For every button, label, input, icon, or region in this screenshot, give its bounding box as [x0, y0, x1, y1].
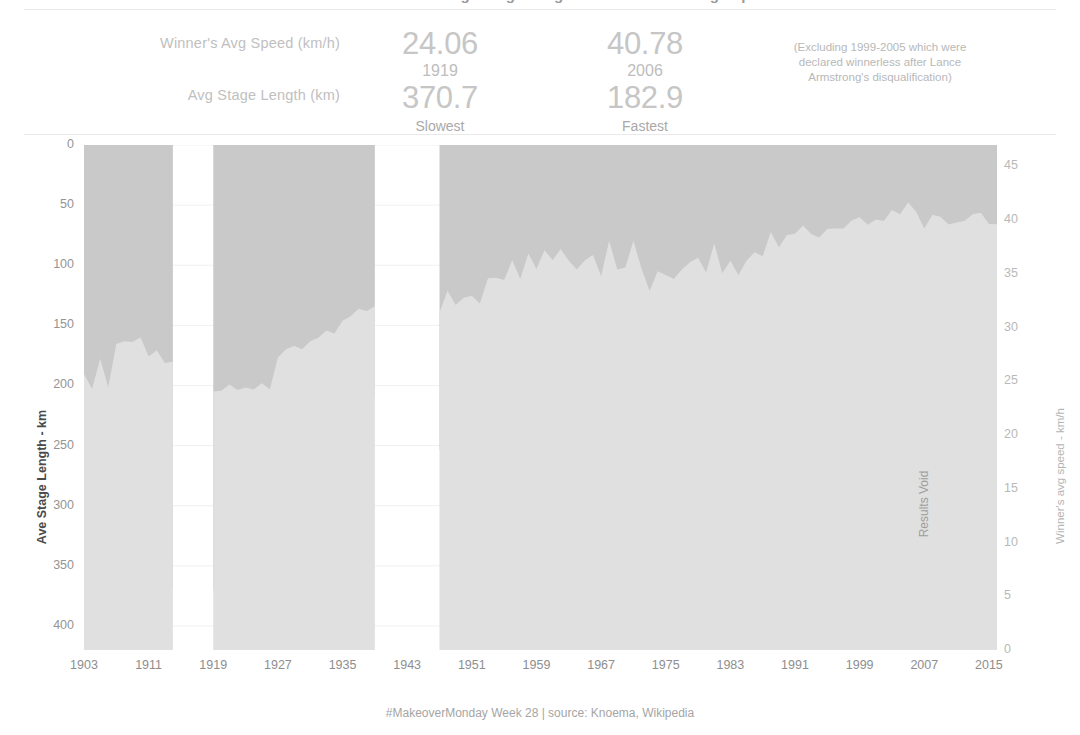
kpi-fastest-stage-length: 182.9	[570, 81, 720, 114]
x-tick-1943: 1943	[377, 658, 437, 672]
x-tick-1935: 1935	[313, 658, 373, 672]
kpi-slowest-year: 1919	[365, 60, 515, 81]
kpi-label-stage-length: Avg Stage Length (km)	[60, 87, 340, 103]
x-tick-2015: 2015	[959, 658, 1019, 672]
y-tick-right-5: 5	[1004, 588, 1034, 602]
kpi-slowest-speed: 24.06	[365, 28, 515, 60]
plot-area	[84, 145, 997, 650]
x-tick-2007: 2007	[894, 658, 954, 672]
kpi-label-speed: Winner's Avg Speed (km/h)	[60, 35, 340, 51]
dashboard-root: Tour de France: Average Stage Length vs …	[0, 0, 1080, 735]
x-tick-1959: 1959	[506, 658, 566, 672]
plot-svg	[84, 145, 997, 650]
dashboard-title-strip: Tour de France: Average Stage Length vs …	[0, 0, 1080, 9]
kpi-fastest-year: 2006	[570, 60, 720, 81]
y-tick-right-30: 30	[1004, 320, 1034, 334]
y-tick-left-0: 0	[10, 137, 74, 151]
y-tick-left-400: 400	[10, 618, 74, 632]
y-tick-left-350: 350	[10, 558, 74, 572]
x-tick-1919: 1919	[183, 658, 243, 672]
x-tick-1999: 1999	[830, 658, 890, 672]
area-chart: Ave Stage Length - km Winner's avg speed…	[0, 140, 1080, 700]
x-tick-1927: 1927	[248, 658, 308, 672]
y-tick-left-50: 50	[10, 197, 74, 211]
y-axis-left-ticks: 050100150200250300350400	[0, 140, 74, 660]
y-tick-left-250: 250	[10, 438, 74, 452]
kpi-fastest-speed: 40.78	[570, 28, 720, 60]
kpi-band: Winner's Avg Speed (km/h) Avg Stage Leng…	[0, 10, 1080, 134]
y-tick-left-300: 300	[10, 498, 74, 512]
y-tick-left-100: 100	[10, 257, 74, 271]
kpi-column-slowest: 24.06 1919 370.7 Slowest	[365, 28, 515, 137]
y-tick-right-40: 40	[1004, 212, 1034, 226]
y-tick-right-35: 35	[1004, 266, 1034, 280]
y-tick-right-25: 25	[1004, 373, 1034, 387]
y-tick-left-200: 200	[10, 377, 74, 391]
dashboard-title: Tour de France: Average Stage Length vs …	[0, 0, 1080, 3]
results-void-label: Results Void	[917, 449, 935, 559]
x-tick-1967: 1967	[571, 658, 631, 672]
x-tick-1983: 1983	[700, 658, 760, 672]
y-tick-right-20: 20	[1004, 427, 1034, 441]
kpi-column-fastest: 40.78 2006 182.9 Fastest	[570, 28, 720, 137]
x-axis-ticks: 1903191119191927193519431951195919671975…	[0, 652, 1080, 682]
y-tick-right-15: 15	[1004, 481, 1034, 495]
footer-credit: #MakeoverMonday Week 28 | source: Knoema…	[0, 706, 1080, 720]
exclusion-note: (Excluding 1999-2005 which were declared…	[785, 40, 975, 86]
y-tick-right-10: 10	[1004, 535, 1034, 549]
x-tick-1991: 1991	[765, 658, 825, 672]
y-tick-right-45: 45	[1004, 158, 1034, 172]
y-tick-left-150: 150	[10, 317, 74, 331]
x-tick-1911: 1911	[119, 658, 179, 672]
x-tick-1975: 1975	[636, 658, 696, 672]
kpi-slowest-stage-length: 370.7	[365, 81, 515, 114]
y-axis-right-ticks: 051015202530354045	[1004, 140, 1064, 660]
x-tick-1903: 1903	[54, 658, 114, 672]
header-divider-bottom	[24, 134, 1056, 135]
x-tick-1951: 1951	[442, 658, 502, 672]
